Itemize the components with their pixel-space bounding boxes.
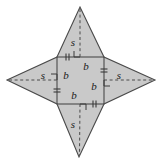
label-slant-bottom: s bbox=[71, 118, 75, 130]
label-slant-left: s bbox=[41, 69, 45, 81]
geometry-figure: s s s s b b b b bbox=[0, 0, 163, 163]
star-polygon bbox=[7, 7, 155, 157]
label-slant-right: s bbox=[117, 69, 121, 81]
label-base-right: b bbox=[91, 80, 97, 92]
label-base-bottom: b bbox=[71, 89, 77, 101]
label-base-left: b bbox=[63, 69, 69, 81]
label-slant-top: s bbox=[71, 36, 75, 48]
star-net-svg: s s s s b b b b bbox=[0, 0, 163, 163]
label-base-top: b bbox=[83, 60, 89, 72]
star-shape-group bbox=[7, 7, 155, 157]
